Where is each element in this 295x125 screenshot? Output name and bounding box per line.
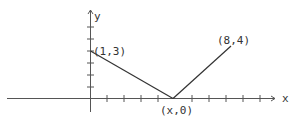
segment-x-0-to-8-4 — [173, 46, 231, 99]
segment-1-3-to-x-0 — [91, 51, 174, 99]
y-axis-label: y — [94, 10, 101, 23]
coordinate-plane: y x (1,3) (x,0) (8,4) — [0, 0, 295, 125]
y-axis — [87, 10, 94, 112]
x-axis-label: x — [282, 92, 289, 105]
point-label-1-3: (1,3) — [93, 45, 126, 58]
x-axis — [7, 95, 275, 102]
point-label-8-4: (8,4) — [217, 34, 250, 47]
point-label-x-0: (x,0) — [160, 104, 193, 117]
